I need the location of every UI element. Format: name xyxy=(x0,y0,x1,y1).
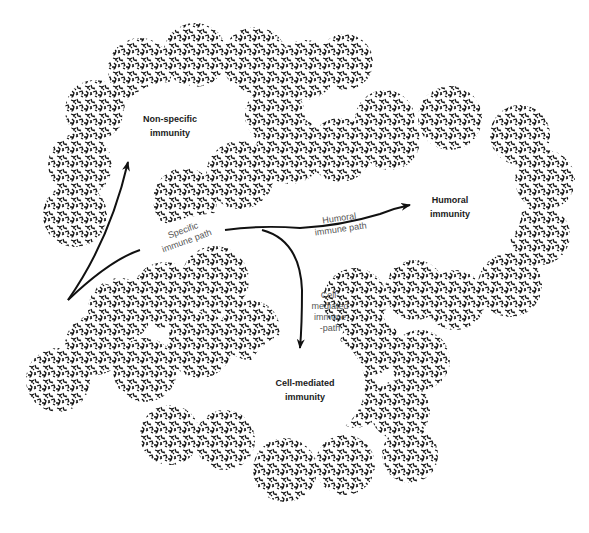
node-cell-mediated-immunity: Cell-mediated immunity xyxy=(245,376,365,404)
node-label-line2: immunity xyxy=(245,390,365,404)
node-label-line1: Non-specific xyxy=(120,112,220,126)
node-label-line1: Cell-mediated xyxy=(245,376,365,390)
path-label-line3: immune xyxy=(295,312,365,323)
node-non-specific-immunity: Non-specific immunity xyxy=(120,112,220,140)
node-label-line1: Humoral xyxy=(400,193,500,207)
path-label-line1: Cell- xyxy=(295,290,365,301)
path-label-line4: -path xyxy=(295,323,365,334)
node-humoral-immunity: Humoral immunity xyxy=(400,193,500,221)
path-label-line2: mediated xyxy=(295,301,365,312)
node-label-line2: immunity xyxy=(400,207,500,221)
path-label-cell-mediated: Cell- mediated immune -path xyxy=(295,290,365,334)
node-label-line2: immunity xyxy=(120,126,220,140)
diagram-canvas xyxy=(0,0,589,533)
